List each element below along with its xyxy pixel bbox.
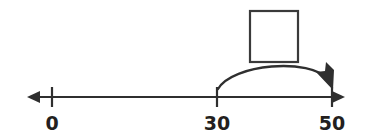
jump-arc-arrowhead-icon	[316, 62, 334, 90]
tick-label-0: 0	[45, 112, 58, 134]
figure-canvas: 0 30 50	[0, 0, 367, 138]
number-line-figure: 0 30 50	[0, 0, 367, 138]
answer-box[interactable]	[250, 11, 298, 62]
number-line: 0 30 50	[27, 87, 345, 134]
axis-right-arrowhead-icon	[332, 91, 345, 103]
jump-arc-path	[218, 66, 329, 89]
tick-label-30: 30	[204, 112, 230, 134]
axis-left-arrowhead-icon	[27, 91, 40, 103]
jump-arc-30-to-50	[218, 62, 334, 90]
tick-label-50: 50	[319, 112, 345, 134]
